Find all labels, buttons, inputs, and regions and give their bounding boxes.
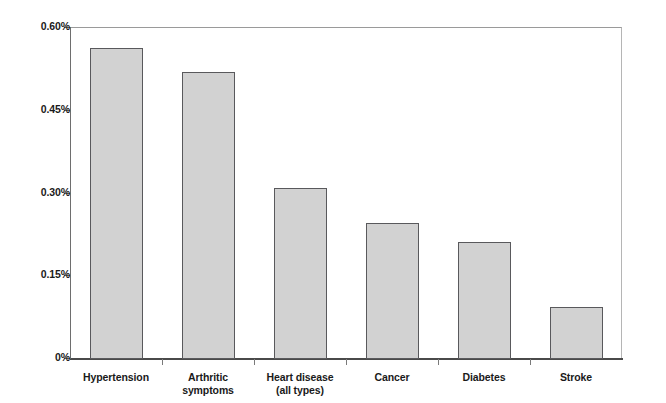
y-axis-tick-label: 0.15% [8, 268, 70, 280]
bar [90, 48, 143, 359]
x-axis-tick [162, 359, 163, 365]
plot-inner [71, 28, 621, 358]
x-axis-tick [438, 359, 439, 365]
y-axis-tick-label: 0% [8, 351, 70, 363]
x-axis-category-label: Hypertension [70, 371, 162, 384]
bar [458, 242, 511, 359]
x-axis-category-label: Heart disease (all types) [254, 371, 346, 396]
bar [274, 188, 327, 359]
y-axis-line [70, 27, 71, 360]
x-axis-category-label: Cancer [346, 371, 438, 384]
x-axis-category-label: Arthritic symptoms [162, 371, 254, 396]
x-axis-tick [346, 359, 347, 365]
x-axis-category-label: Stroke [530, 371, 622, 384]
x-axis-category-label: Diabetes [438, 371, 530, 384]
bar [182, 72, 235, 359]
bar-chart: 0%0.15%0.30%0.45%0.60% HypertensionArthr… [0, 0, 666, 403]
x-axis-tick [530, 359, 531, 365]
bar [366, 223, 419, 359]
plot-area [70, 27, 622, 359]
y-axis-tick-label: 0.45% [8, 103, 70, 115]
x-axis-tick [254, 359, 255, 365]
y-axis-tick-label: 0.60% [8, 20, 70, 32]
y-axis-tick-label: 0.30% [8, 186, 70, 198]
bar [550, 307, 603, 359]
